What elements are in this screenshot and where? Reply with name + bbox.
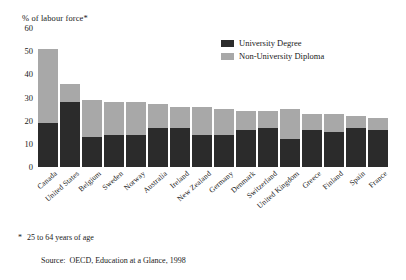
bar-segment-non-university-diploma	[236, 111, 256, 130]
footnote: *25 to 64 years of age	[18, 233, 94, 242]
source-text: OECD, Education at a Glance, 1998	[69, 256, 185, 265]
y-axis-tick-label: 40	[25, 69, 34, 79]
y-axis-title: % of labour force*	[22, 13, 88, 23]
bar-segment-non-university-diploma	[258, 111, 278, 127]
bar-segment-non-university-diploma	[280, 109, 300, 139]
plot-area: 0102030405060	[38, 28, 390, 167]
y-axis-tick-label: 50	[25, 46, 34, 56]
bar-segment-non-university-diploma	[302, 114, 322, 130]
footnote-marker: *	[18, 233, 22, 242]
legend-swatch-non-university-diploma	[221, 53, 234, 60]
legend-label-university-degree: University Degree	[239, 39, 302, 48]
bar-segment-non-university-diploma	[82, 100, 102, 137]
legend-item-university-degree: University Degree	[221, 38, 324, 48]
source-label: Source:	[41, 256, 65, 265]
bar-segment-non-university-diploma	[104, 102, 124, 134]
bar-segment-non-university-diploma	[170, 107, 190, 128]
y-axis-tick-label: 0	[29, 162, 33, 172]
x-axis-category-labels: CanadaUnited StatesBelgiumSwedenNorwayAu…	[38, 169, 390, 225]
y-axis-tick-label: 10	[25, 139, 34, 149]
bars-layer	[38, 28, 390, 167]
bar-segment-university-degree	[38, 123, 58, 167]
chart-figure: % of labour force* 0102030405060 CanadaU…	[0, 0, 406, 280]
bar-segment-non-university-diploma	[60, 84, 80, 103]
bar-canada	[38, 49, 58, 167]
chart-legend: University Degree Non-University Diploma	[221, 38, 324, 64]
y-axis-tick-label: 30	[25, 93, 34, 103]
y-axis-tick-label: 60	[25, 23, 34, 33]
legend-swatch-university-degree	[221, 40, 234, 47]
bar-segment-non-university-diploma	[192, 107, 212, 135]
legend-label-non-university-diploma: Non-University Diploma	[239, 52, 324, 61]
bar-segment-non-university-diploma	[38, 49, 58, 123]
bar-segment-non-university-diploma	[346, 116, 366, 128]
source-note: Source: OECD, Education at a Glance, 199…	[41, 256, 186, 265]
bar-segment-non-university-diploma	[126, 102, 146, 134]
bar-segment-non-university-diploma	[368, 118, 388, 130]
y-axis-tick-label: 20	[25, 116, 34, 126]
legend-item-non-university-diploma: Non-University Diploma	[221, 51, 324, 61]
bar-segment-non-university-diploma	[214, 109, 234, 134]
bar-segment-non-university-diploma	[148, 104, 168, 127]
footnote-text: 25 to 64 years of age	[27, 233, 94, 242]
bar-segment-non-university-diploma	[324, 114, 344, 133]
